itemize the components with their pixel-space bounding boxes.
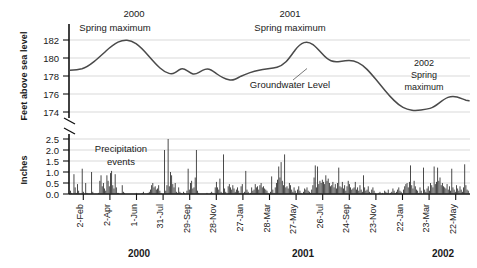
anno-2002-text-2: maximum <box>404 82 443 92</box>
precipitation-bar <box>332 182 333 194</box>
precipitation-bar <box>370 193 371 194</box>
precipitation-bar <box>76 193 77 194</box>
precipitation-bar <box>212 193 213 194</box>
precipitation-bar <box>75 187 76 194</box>
precipitation-bar <box>417 191 418 194</box>
precipitation-bar <box>159 191 160 194</box>
precipitation-bar <box>307 187 308 194</box>
precipitation-bar <box>178 187 179 194</box>
precipitation-bar <box>143 192 144 194</box>
precipitation-bar <box>409 182 410 194</box>
precip-anno-line2: events <box>107 156 135 167</box>
y-tick-label-176: 176 <box>43 89 59 100</box>
precipitation-bar <box>465 185 466 194</box>
precipitation-bar <box>354 187 355 194</box>
precipitation-bar <box>122 185 123 194</box>
precipitation-bar <box>168 139 169 194</box>
precipitation-bar <box>401 192 402 194</box>
precipitation-bar <box>103 183 104 194</box>
precipitation-bar <box>416 190 417 194</box>
precipitation-bar <box>183 192 184 194</box>
precipitation-bar <box>77 184 78 194</box>
precipitation-bar <box>92 192 93 194</box>
precipitation-bar <box>342 182 343 194</box>
precipitation-bar <box>296 193 297 194</box>
precipitation-bar <box>360 185 361 194</box>
precipitation-bar <box>451 169 452 194</box>
precipitation-bar <box>164 150 165 194</box>
precipitation-bar <box>289 183 290 194</box>
precipitation-bar <box>295 191 296 194</box>
precipitation-bar <box>218 190 219 194</box>
precipitation-bar <box>236 190 237 194</box>
precipitation-bar <box>428 186 429 194</box>
precipitation-bar <box>351 190 352 194</box>
precipitation-bar <box>108 181 109 194</box>
precipitation-bar <box>224 189 225 195</box>
precipitation-bar <box>442 183 443 194</box>
anno-2001-year: 2001 <box>279 8 300 19</box>
precipitation-bar <box>257 186 258 194</box>
precipitation-bar <box>328 179 329 194</box>
precipitation-bar <box>398 187 399 194</box>
precipitation-bar <box>244 192 245 194</box>
precipitation-bar <box>358 191 359 194</box>
precipitation-bar <box>245 171 246 194</box>
y-tick-label-178: 178 <box>43 71 59 82</box>
x-tick-label: 29-Sep <box>182 204 192 233</box>
precipitation-bar <box>374 191 375 194</box>
precipitation-bar <box>382 193 383 194</box>
precipitation-bar <box>181 193 182 194</box>
precipitation-bar <box>455 192 456 194</box>
precipitation-bar <box>418 193 419 194</box>
precipitation-bar <box>184 193 185 194</box>
precipitation-bar <box>158 185 159 194</box>
precipitation-bar <box>385 192 386 194</box>
x-tick-label: 22-Jan <box>395 204 405 232</box>
precipitation-bar <box>238 191 239 194</box>
precipitation-bar <box>192 189 193 195</box>
precipitation-bar <box>364 187 365 194</box>
precipitation-bar <box>322 180 323 194</box>
precipitation-bar <box>194 187 195 194</box>
precipitation-bar <box>228 186 229 194</box>
precipitation-bar <box>301 193 302 194</box>
precipitation-bar <box>207 193 208 194</box>
precipitation-bar <box>458 191 459 194</box>
precipitation-bar <box>291 190 292 194</box>
x-tick-label: 26-Jul <box>315 204 325 229</box>
anno-2000-year: 2000 <box>123 8 144 19</box>
precipitation-bar <box>278 167 279 195</box>
precipitation-bar <box>234 189 235 195</box>
precipitation-bar <box>216 182 217 194</box>
y-tick-label-180: 180 <box>43 53 59 64</box>
precipitation-bar <box>115 174 116 194</box>
precipitation-bar <box>111 171 112 194</box>
precipitation-bar <box>425 192 426 194</box>
precipitation-bar <box>98 193 99 194</box>
precipitation-bar <box>188 169 189 194</box>
precipitation-bar <box>421 191 422 194</box>
precipitation-bar <box>352 189 353 195</box>
precipitation-bar <box>250 193 251 194</box>
precipitation-bar <box>237 187 238 194</box>
precipitation-bar <box>393 189 394 195</box>
x-tick-label: 23-Nov <box>368 204 378 234</box>
y-tick-label-0p5: 0.5 <box>46 178 59 189</box>
x-tick-label: 2-Feb <box>75 204 85 228</box>
precipitation-bar <box>341 187 342 194</box>
precipitation-bar <box>288 189 289 195</box>
lower-y-tick-labels: 2.5 2.0 1.5 1.0 0.5 0.0 <box>46 134 59 200</box>
y-tick-label-0p0: 0.0 <box>46 189 59 200</box>
precipitation-bar <box>171 175 172 194</box>
precipitation-bar <box>316 187 317 194</box>
precipitation-bar <box>239 193 240 194</box>
precipitation-bar <box>463 187 464 194</box>
precipitation-bar <box>167 185 168 194</box>
precipitation-bar <box>375 193 376 194</box>
precipitation-bar <box>298 186 299 194</box>
precipitation-bar <box>434 167 435 195</box>
precipitation-bar <box>312 185 313 194</box>
precipitation-bar <box>71 193 72 194</box>
precipitation-bar <box>248 192 249 194</box>
